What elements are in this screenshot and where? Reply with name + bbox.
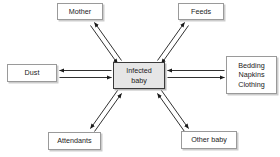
node-bedding-napkins-clothing[interactable]: Bedding Napkins Clothing (226, 56, 277, 94)
connector-mother (91, 23, 122, 64)
node-label-line: Clothing (238, 80, 264, 89)
node-label-line: Infected (126, 66, 152, 75)
connector-other-baby (158, 91, 189, 132)
connector-dust (60, 71, 112, 78)
node-feeds[interactable]: Feeds (178, 3, 224, 20)
node-label-line: Napkins (239, 70, 265, 79)
node-attendants[interactable]: Attendants (48, 132, 101, 150)
node-infected-baby[interactable]: Infected baby (113, 62, 165, 89)
node-label-line: Other baby (191, 135, 227, 144)
node-label-line: Bedding (238, 61, 264, 70)
connector-feeds (158, 23, 189, 64)
connector-attendants (91, 91, 122, 132)
connector-bedding (168, 71, 225, 78)
node-label-line: Feeds (191, 7, 211, 16)
node-label-line: baby (131, 76, 147, 85)
node-label-line: Mother (69, 7, 91, 16)
node-mother[interactable]: Mother (57, 3, 103, 20)
cross-infection-diagram: Infected baby Mother Feeds Dust Bedding … (0, 0, 280, 157)
node-label-line: Attendants (57, 136, 91, 145)
node-label-line: Dust (25, 68, 40, 77)
node-dust[interactable]: Dust (7, 64, 57, 82)
node-other-baby[interactable]: Other baby (181, 131, 237, 149)
